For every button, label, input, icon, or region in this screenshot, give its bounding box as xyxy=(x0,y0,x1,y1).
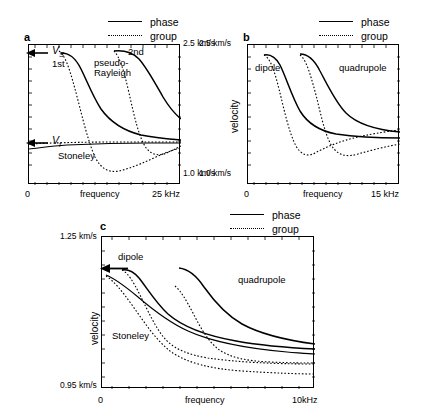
panel-c-label-dipole: dipole xyxy=(118,251,143,262)
legend-panel-c: phase group xyxy=(230,209,301,237)
panel-c-label-quadrupole: quadrupole xyxy=(238,274,286,285)
vs-arrow-icon xyxy=(26,48,48,58)
group-line-swatch-icon xyxy=(108,35,142,37)
legend-row-phase: phase xyxy=(230,209,301,221)
panel-a-x-end-label: 25 kHz xyxy=(152,189,180,199)
legend-label-group: group xyxy=(361,30,388,42)
panel-b: phase group b 2.5 km/s 1.0 km/s velocity… xyxy=(211,0,422,209)
legend-label-group: group xyxy=(150,30,177,42)
panel-c-y-top-label: 1.25 km/s xyxy=(60,231,97,241)
panel-c-x-start-label: 0 xyxy=(98,395,103,405)
phase-line-swatch-icon xyxy=(319,21,353,23)
vf-symbol: V xyxy=(52,134,59,146)
legend-label-phase: phase xyxy=(361,16,390,28)
panel-b-x-end-label: 15 kHz xyxy=(371,189,399,199)
legend-label-group: group xyxy=(272,223,299,235)
group-line-swatch-icon xyxy=(319,35,353,37)
panel-letter-a: a xyxy=(24,31,30,43)
panel-a-label-stoneley: Stoneley xyxy=(58,150,95,161)
panel-b-y-top-label: 2.5 km/s xyxy=(199,38,231,48)
panel-a-x-start-label: 0 xyxy=(25,189,30,199)
vf-subscript: f xyxy=(59,140,61,149)
group-line-swatch-icon xyxy=(230,228,264,230)
panel-letter-b: b xyxy=(243,31,250,43)
panel-a: phase group a 2.5 km/s 1.0 km/s 0 freque… xyxy=(0,0,211,209)
panel-c-y-bottom-label: 0.95 km/s xyxy=(60,380,97,390)
panel-b-label-quadrupole: quadrupole xyxy=(339,62,387,73)
panel-b-x-start-label: 0 xyxy=(244,189,249,199)
panel-a-label-vf: Vf xyxy=(52,134,61,149)
panel-a-label-2nd: 2nd xyxy=(128,46,144,57)
legend-label-phase: phase xyxy=(150,16,179,28)
panel-a-label-pseudo-rayleigh: pseudo- Rayleigh xyxy=(94,58,131,78)
panel-a-label-1st: 1st xyxy=(52,58,65,69)
legend-row-group: group xyxy=(319,30,390,42)
panel-a-x-title: frequency xyxy=(80,189,120,199)
panel-c: phase group c 1.25 km/s 0.95 km/s veloci… xyxy=(60,205,422,418)
phase-line-swatch-icon xyxy=(108,21,142,23)
panel-c-x-title: frequency xyxy=(185,395,225,405)
legend-row-phase: phase xyxy=(108,16,179,28)
pseudo-line2: Rayleigh xyxy=(94,68,131,78)
panel-c-y-title: velocity xyxy=(89,312,100,345)
legend-panel-a: phase group xyxy=(108,16,179,44)
legend-panel-b: phase group xyxy=(319,16,390,44)
legend-label-phase: phase xyxy=(272,209,301,221)
phase-line-swatch-icon xyxy=(230,214,264,216)
panel-a-label-vs: VS xyxy=(52,44,64,59)
dipole-arrow-icon xyxy=(100,263,128,274)
panel-c-x-end-label: 10kHz xyxy=(292,395,318,405)
panel-c-label-stoneley: Stoneley xyxy=(112,330,149,341)
panel-b-y-bottom-label: 1.0 km/s xyxy=(199,168,231,178)
legend-row-phase: phase xyxy=(319,16,390,28)
panel-b-label-dipole: dipole xyxy=(255,62,280,73)
legend-row-group: group xyxy=(230,223,301,235)
panel-b-y-title: velocity xyxy=(229,100,240,133)
panel-b-x-title: frequency xyxy=(303,189,343,199)
vs-symbol: V xyxy=(52,44,59,56)
vf-arrow-icon xyxy=(26,138,48,148)
legend-row-group: group xyxy=(108,30,179,42)
panel-letter-c: c xyxy=(100,220,106,232)
